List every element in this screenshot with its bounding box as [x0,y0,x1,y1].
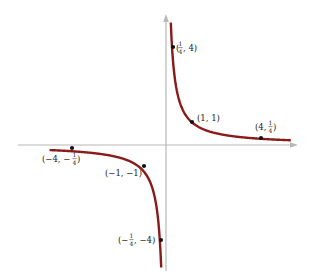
x-axis-arrow-icon [290,142,298,148]
point-neg1-neg1 [142,164,146,168]
point-1-1 [190,120,194,124]
axes [18,14,298,271]
point-neg4-negquarter [70,146,74,150]
svg-text:, −4): , −4) [134,235,155,245]
point-4-quarter [259,136,263,140]
svg-text:4: 4 [179,48,183,55]
svg-text:1: 1 [179,40,183,47]
label-neg4-negquarter: (−4, − 1 4 ) [42,151,80,166]
label-4-quarter: (4, 1 4 ) [255,119,276,134]
svg-text:1: 1 [130,232,134,239]
svg-text:1: 1 [269,119,273,126]
svg-text:(−4, −: (−4, − [42,154,70,164]
svg-text:(−: (− [118,235,128,245]
svg-text:(4,: (4, [255,122,266,132]
svg-text:): ) [77,154,80,164]
label-quarter-4: ( 1 4 , 4) [176,40,197,55]
point-quarter-4 [171,45,175,49]
svg-text:): ) [273,122,276,132]
label-neg1-neg1: (−1, −1) [105,168,142,178]
label-1-1: (1, 1) [197,113,220,123]
svg-text:, 4): , 4) [183,43,197,53]
hyperbola-chart: ( 1 4 , 4) (1, 1) (4, 1 4 ) (−4, − 1 4 )… [0,0,314,277]
point-labels: ( 1 4 , 4) (1, 1) (4, 1 4 ) (−4, − 1 4 )… [42,40,276,247]
point-negquarter-neg4 [159,238,163,242]
label-negquarter-neg4: (− 1 4 , −4) [118,232,155,247]
svg-text:4: 4 [269,127,273,134]
svg-text:4: 4 [73,159,77,166]
svg-text:4: 4 [130,240,134,247]
y-axis-arrow-icon [163,14,169,22]
svg-text:1: 1 [73,151,77,158]
